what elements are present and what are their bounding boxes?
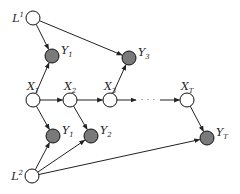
latent-node-circle (25, 169, 39, 183)
node-label: Y2 (100, 124, 112, 139)
latent-node-circle (26, 11, 40, 25)
edge-L2-Y2 (38, 140, 85, 172)
observed-node-circle (200, 131, 214, 145)
node-L2: L2 (10, 169, 39, 183)
node-label: L1 (11, 11, 24, 25)
node-label: Y3 (138, 46, 150, 61)
edge-L2-YT (39, 140, 200, 175)
edge-X2-Y2 (74, 106, 88, 129)
observed-node-circle (45, 49, 59, 63)
node-X1: X1 (26, 80, 40, 107)
node-Y3: Y3 (122, 46, 150, 65)
observed-node-circle (84, 129, 98, 143)
observed-node-circle (46, 129, 60, 143)
node-label: YT (216, 126, 229, 141)
node-label: Y1 (62, 124, 74, 139)
latent-node-circle (26, 93, 40, 107)
node-X3: X3 (103, 80, 117, 107)
ellipsis: · · · (141, 95, 155, 105)
graphical-model-diagram: L1Y1Y3X1X2X3XTY1Y2YTL2 · · · (0, 0, 240, 194)
node-L1: L1 (11, 11, 40, 25)
node-label: X3 (103, 80, 117, 95)
node-label: Y1 (61, 44, 73, 59)
edge-L1-Y1a (36, 24, 49, 49)
node-label: X2 (63, 80, 77, 95)
observed-node-circle (122, 51, 136, 65)
edge-X1-Y1b (36, 106, 49, 129)
latent-node-circle (103, 93, 117, 107)
node-XT: XT (180, 80, 195, 107)
node-Y1a: Y1 (45, 44, 73, 63)
node-label: XT (180, 80, 195, 95)
latent-node-circle (63, 93, 77, 107)
node-Y2: Y2 (84, 124, 112, 143)
latent-node-circle (180, 93, 194, 107)
edge-XT-YT (190, 106, 203, 131)
node-X2: X2 (63, 80, 77, 107)
node-label: L2 (10, 169, 23, 183)
node-YT: YT (200, 126, 229, 145)
node-Y1b: Y1 (46, 124, 74, 143)
node-label: X1 (26, 80, 39, 95)
